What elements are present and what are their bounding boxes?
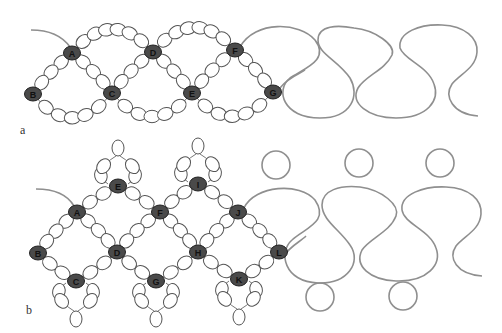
key-bead-j: J bbox=[230, 205, 247, 219]
beadwork-diagram: ADFBCEGEIAFJBDHLCGK a b bbox=[0, 0, 502, 333]
key-bead-g: G bbox=[265, 85, 282, 99]
key-bead-c: C bbox=[68, 274, 85, 288]
key-bead-letter: B bbox=[35, 249, 42, 259]
key-bead-letter: C bbox=[73, 277, 80, 287]
key-bead-d: D bbox=[109, 245, 126, 259]
key-bead-letter: G bbox=[152, 277, 159, 287]
key-bead-letter: E bbox=[115, 182, 121, 192]
thread-loop bbox=[306, 283, 334, 311]
key-bead-letter: A bbox=[69, 49, 76, 59]
thread-path bbox=[36, 189, 74, 206]
key-bead-i: I bbox=[190, 177, 207, 191]
thread-path bbox=[240, 25, 478, 118]
key-bead-letter: C bbox=[109, 89, 116, 99]
key-bead-b: B bbox=[25, 87, 42, 101]
key-bead-e: E bbox=[110, 179, 127, 193]
key-bead-letter: D bbox=[114, 248, 121, 258]
thread-loop bbox=[426, 149, 454, 177]
key-bead-d: D bbox=[145, 45, 162, 59]
key-bead-letter: F bbox=[157, 208, 163, 218]
key-bead-a: A bbox=[69, 205, 86, 219]
seed-bead bbox=[112, 140, 124, 156]
diagram-canvas: ADFBCEGEIAFJBDHLCGK bbox=[0, 0, 502, 333]
key-bead-letter: J bbox=[235, 208, 240, 218]
key-bead-letter: K bbox=[236, 275, 243, 285]
key-bead-letter: I bbox=[197, 180, 200, 190]
key-bead-k: K bbox=[231, 272, 248, 286]
thread-path bbox=[31, 30, 70, 47]
key-bead-g: G bbox=[148, 274, 165, 288]
key-bead-letter: L bbox=[276, 248, 282, 258]
key-bead-letter: G bbox=[269, 88, 276, 98]
figure-label-a: a bbox=[20, 123, 25, 138]
key-bead-f: F bbox=[152, 205, 169, 219]
thread-loop bbox=[389, 282, 417, 310]
key-bead-f: F bbox=[227, 43, 244, 57]
key-bead-a: A bbox=[64, 46, 81, 60]
thread-loop bbox=[345, 149, 373, 177]
seed-bead bbox=[233, 309, 245, 325]
key-bead-letter: B bbox=[30, 90, 37, 100]
key-bead-letter: A bbox=[74, 208, 81, 218]
key-bead-letter: H bbox=[195, 248, 202, 258]
key-bead-b: B bbox=[30, 246, 47, 260]
seed-bead bbox=[70, 311, 82, 327]
key-bead-layer: ADFBCEGEIAFJBDHLCGK bbox=[25, 43, 288, 288]
figure-label-b: b bbox=[26, 303, 32, 318]
thread-loop bbox=[262, 151, 290, 179]
seed-bead bbox=[192, 138, 204, 154]
key-bead-c: C bbox=[104, 86, 121, 100]
key-bead-letter: D bbox=[150, 48, 157, 58]
key-bead-l: L bbox=[271, 245, 288, 259]
thread-path bbox=[244, 187, 482, 283]
key-bead-letter: F bbox=[232, 46, 238, 56]
key-bead-e: E bbox=[184, 86, 201, 100]
key-bead-letter: E bbox=[189, 89, 195, 99]
key-bead-h: H bbox=[190, 245, 207, 259]
seed-bead bbox=[150, 311, 162, 327]
